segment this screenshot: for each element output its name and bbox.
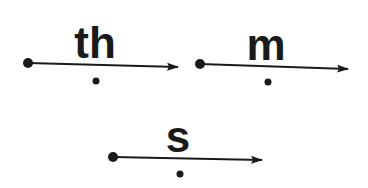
label-th: th [74,18,116,67]
label-s: s [166,112,190,161]
diagram-canvas: th m s [0,0,368,188]
label-m: m [246,20,285,69]
arrow-group-m: m [195,20,348,86]
sub-dot-icon [93,78,100,85]
arrow-group-s: s [108,112,262,178]
sub-dot-icon [177,171,184,178]
arrow-group-th: th [23,18,178,85]
sub-dot-icon [265,79,272,86]
diagram-svg: th m s [0,0,368,188]
